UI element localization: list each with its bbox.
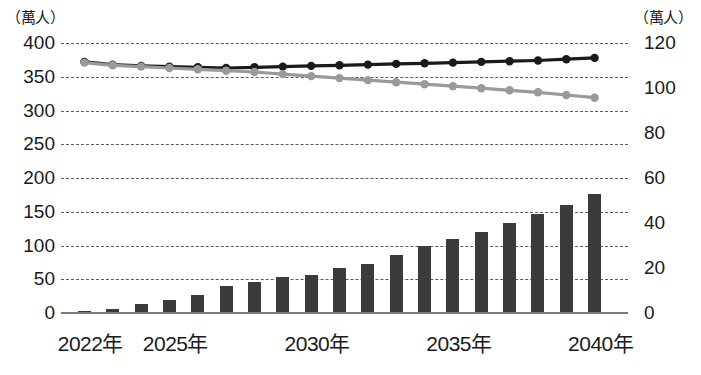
gray-line-series-marker-2027年	[222, 67, 230, 75]
gray-line-series-marker-2023年	[109, 61, 117, 69]
gray-line-series-marker-2032年	[364, 76, 372, 84]
left-axis-tick-50: 50	[3, 269, 55, 288]
left-axis-unit-label: （萬人）	[6, 6, 64, 27]
left-axis-tick-100: 100	[3, 236, 55, 255]
dark-line-series-marker-2034年	[420, 59, 428, 67]
left-axis-tick-150: 150	[3, 202, 55, 221]
right-axis-tick-100: 100	[644, 78, 690, 97]
left-axis-tick-400: 400	[3, 33, 55, 52]
dark-line-series-marker-2032年	[364, 60, 372, 68]
x-axis-tick-2022年: 2022年	[58, 327, 123, 357]
dark-line-series-marker-2038年	[534, 56, 542, 64]
gray-line-series-marker-2039年	[562, 91, 570, 99]
dark-line-series-marker-2033年	[392, 60, 400, 68]
left-axis-tick-300: 300	[3, 101, 55, 120]
gray-line-series-marker-2040年	[590, 94, 598, 102]
gray-line-series-marker-2030年	[307, 72, 315, 80]
dark-line-series-marker-2035年	[449, 58, 457, 66]
gray-line-series-marker-2035年	[449, 82, 457, 90]
x-axis-tick-2025年: 2025年	[143, 327, 208, 357]
chart-container: （萬人） （萬人） 400350300250200150100500 12010…	[0, 0, 701, 375]
plot-area	[61, 43, 628, 313]
x-axis-baseline	[61, 312, 628, 314]
gray-line-series-marker-2034年	[420, 80, 428, 88]
right-axis-tick-60: 60	[644, 168, 690, 187]
dark-line-series-marker-2037年	[505, 57, 513, 65]
x-axis-tick-2040年: 2040年	[568, 327, 633, 357]
left-axis-tick-0: 0	[3, 303, 55, 322]
right-axis-tick-0: 0	[644, 303, 690, 322]
right-axis-tick-80: 80	[644, 123, 690, 142]
left-axis-tick-350: 350	[3, 67, 55, 86]
left-axis-tick-200: 200	[3, 168, 55, 187]
gray-line-series-marker-2037年	[505, 86, 513, 94]
right-axis-tick-40: 40	[644, 213, 690, 232]
left-axis-tick-250: 250	[3, 134, 55, 153]
gray-line-series-marker-2029年	[279, 70, 287, 78]
gray-line-series-marker-2026年	[194, 65, 202, 73]
dark-line-series-marker-2031年	[335, 61, 343, 69]
bottom-caption-strip	[0, 360, 701, 375]
gray-line-series-marker-2036年	[477, 84, 485, 92]
gray-line-series-marker-2031年	[335, 74, 343, 82]
gray-line-series-marker-2025年	[165, 64, 173, 72]
gray-line-series-marker-2033年	[392, 78, 400, 86]
line-series-group	[61, 43, 628, 313]
x-axis-tick-2030年: 2030年	[285, 327, 350, 357]
dark-line-series-marker-2036年	[477, 58, 485, 66]
dark-line-series-marker-2039年	[562, 55, 570, 63]
dark-line-series-marker-2040年	[590, 54, 598, 62]
right-axis-tick-120: 120	[644, 33, 690, 52]
dark-line-series-marker-2030年	[307, 62, 315, 70]
gray-line-series-marker-2028年	[250, 68, 258, 76]
gray-line-series-marker-2024年	[137, 62, 145, 70]
gray-line-series-marker-2022年	[80, 58, 88, 66]
x-axis-tick-2035年: 2035年	[426, 327, 491, 357]
dark-line-series-marker-2029年	[279, 62, 287, 70]
right-axis-tick-20: 20	[644, 258, 690, 277]
gray-line-series-marker-2038年	[534, 88, 542, 96]
right-axis-unit-label: （萬人）	[634, 6, 692, 27]
